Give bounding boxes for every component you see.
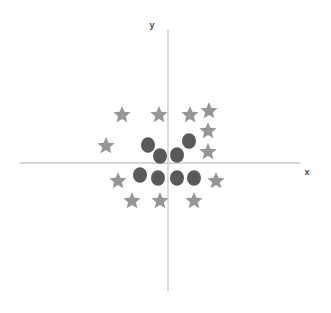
data-point-star	[181, 106, 198, 122]
data-point-star	[199, 143, 216, 159]
data-point-circle	[153, 148, 167, 164]
data-point-star	[199, 122, 216, 138]
data-point-star	[113, 106, 130, 122]
data-point-circle	[187, 170, 201, 186]
data-point-star	[207, 172, 224, 188]
data-point-star	[97, 137, 114, 153]
data-point-star	[123, 192, 140, 208]
series-circles	[133, 133, 201, 186]
plot-canvas: x y	[0, 0, 331, 313]
data-point-circle	[170, 147, 184, 163]
data-point-star	[185, 192, 202, 208]
data-point-circle	[182, 133, 196, 149]
data-series-layer	[97, 102, 224, 208]
data-point-star	[151, 192, 168, 208]
x-axis-label: x	[304, 167, 309, 177]
data-point-star	[150, 106, 167, 122]
data-point-star	[200, 102, 217, 118]
data-point-circle	[141, 137, 155, 153]
y-axis-label: y	[149, 20, 154, 30]
scatter-plot-figure: x y	[0, 0, 331, 313]
data-point-star	[109, 172, 126, 188]
data-point-circle	[133, 167, 147, 183]
data-point-circle	[151, 170, 165, 186]
data-point-circle	[170, 170, 184, 186]
